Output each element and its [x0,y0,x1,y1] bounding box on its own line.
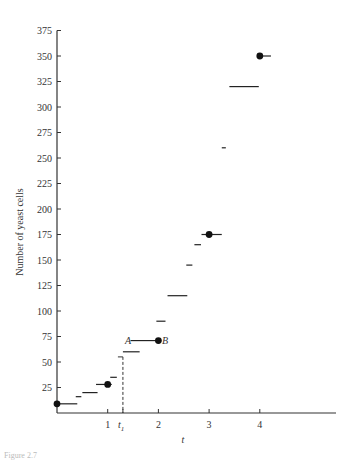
data-point [155,337,162,344]
y-tick-label: 150 [37,255,52,266]
data-point [104,381,111,388]
y-tick-label: 25 [42,382,52,393]
y-axis-label: Number of yeast cells [14,188,25,276]
y-tick-label: 300 [37,102,52,113]
axes [57,31,336,414]
data-point [54,400,61,407]
x-tick-label: 4 [257,419,262,430]
y-tick-label: 50 [42,357,52,368]
figure-caption: Figure 2.7 [4,451,37,460]
x-axis-ticks: 1234 [105,409,262,430]
y-tick-label: 350 [37,51,52,62]
t1-dashed-line [118,357,123,413]
y-tick-label: 175 [37,229,52,240]
data-points [54,53,264,408]
x-tick-t1: t1 [118,419,124,433]
y-tick-label: 225 [37,178,52,189]
y-tick-label: 250 [37,153,52,164]
x-tick-label: 1 [105,419,110,430]
y-tick-label: 325 [37,76,52,87]
data-segments [57,56,271,404]
x-tick-label: 3 [207,419,212,430]
y-tick-label: 200 [37,204,52,215]
x-axis-label: t [182,434,185,445]
y-tick-label: 375 [37,25,52,36]
y-tick-label: 100 [37,306,52,317]
y-tick-label: 275 [37,127,52,138]
y-tick-label: 75 [42,331,52,342]
annotation-a: A [124,335,132,346]
data-point [206,231,213,238]
x-tick-label: 2 [156,419,161,430]
annotation-b: B [162,335,168,346]
y-tick-label: 125 [37,280,52,291]
t1-subscript: 1 [121,425,125,433]
data-point [256,53,263,60]
